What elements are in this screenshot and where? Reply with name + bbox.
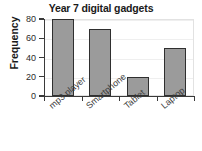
chart-title: Year 7 digital gadgets	[0, 2, 202, 14]
x-axis-tick	[157, 96, 158, 101]
x-axis-tick	[119, 96, 120, 101]
y-axis-tick-label: 60	[10, 33, 36, 43]
y-axis-line	[44, 19, 45, 97]
y-axis-tick-label: 0	[10, 91, 36, 101]
bar-chart-figure: Year 7 digital gadgets Frequency 0204060…	[0, 0, 202, 151]
x-axis-tick	[44, 96, 45, 101]
y-axis-tick	[39, 57, 44, 58]
x-axis-tick	[82, 96, 83, 101]
y-axis-tick-label: 40	[10, 53, 36, 63]
y-axis-tick-label: 80	[10, 14, 36, 24]
y-axis-tick-label: 20	[10, 72, 36, 82]
y-axis-tick	[39, 38, 44, 39]
x-axis-tick	[194, 96, 195, 101]
y-axis-tick	[39, 18, 44, 19]
y-axis-tick	[39, 76, 44, 77]
